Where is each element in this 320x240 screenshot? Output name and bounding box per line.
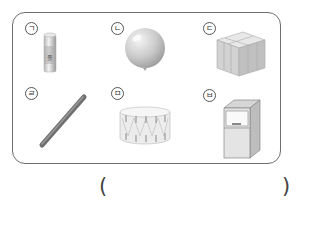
balloon-icon (123, 27, 167, 75)
label-f: ㅂ (203, 89, 216, 102)
drum-icon (118, 106, 172, 146)
answer-close-paren: ) (282, 174, 290, 198)
cabinet-icon (222, 98, 262, 160)
glue-stick-icon: 풀 (43, 32, 57, 74)
answer-open-paren: ( (99, 174, 107, 198)
answer-blank[interactable] (112, 176, 277, 198)
label-d: ㄹ (25, 87, 38, 100)
box-stack-icon (215, 30, 267, 78)
rod-icon (38, 93, 88, 149)
svg-text:풀: 풀 (47, 54, 53, 61)
label-a: ㄱ (25, 22, 38, 35)
label-e: ㅁ (111, 87, 124, 100)
